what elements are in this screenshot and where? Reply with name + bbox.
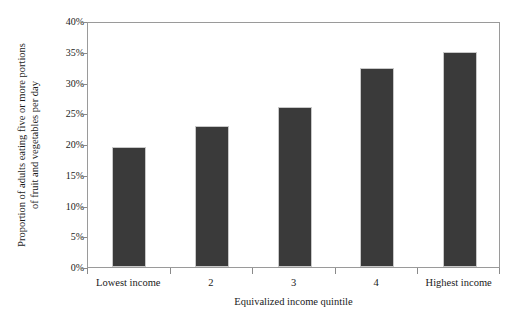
y-axis-tick-label: 0% — [52, 263, 84, 273]
y-axis-tick-label: 15% — [52, 171, 84, 181]
bar[interactable] — [112, 147, 146, 267]
x-axis-tick-mark — [170, 268, 171, 274]
y-axis-title-line-1: Proportion of adults eating five or more… — [15, 43, 28, 247]
y-axis-tick-mark — [81, 114, 87, 115]
y-axis-title-line-2: of fruit and vegetables per day — [28, 43, 41, 247]
y-axis-title-text: Proportion of adults eating five or more… — [15, 43, 41, 247]
y-axis-tick-mark — [81, 22, 87, 23]
x-axis-tick-mark — [87, 268, 88, 274]
y-axis-title: Proportion of adults eating five or more… — [0, 0, 56, 290]
x-axis-tick-label: Highest income — [426, 277, 492, 289]
bar[interactable] — [195, 126, 229, 267]
y-axis-tick-mark — [81, 84, 87, 85]
x-axis-title: Equivalized income quintile — [87, 295, 500, 308]
y-axis-tick-mark — [81, 237, 87, 238]
bars-layer — [88, 23, 499, 267]
y-axis-tick-labels: 0%5%10%15%20%25%30%35%40% — [52, 0, 84, 320]
x-axis-tick-label: Lowest income — [96, 277, 160, 289]
y-axis-tick-label: 20% — [52, 140, 84, 150]
y-axis-tick-mark — [81, 53, 87, 54]
x-axis-tick-mark — [499, 268, 500, 274]
y-axis-tick-label: 30% — [52, 79, 84, 89]
plot-area — [87, 22, 500, 268]
bar[interactable] — [278, 107, 312, 267]
y-axis-tick-mark — [81, 176, 87, 177]
y-axis-tick-label: 35% — [52, 48, 84, 58]
x-axis-tick-mark — [335, 268, 336, 274]
bar[interactable] — [443, 52, 477, 267]
y-axis-tick-label: 10% — [52, 202, 84, 212]
y-axis-tick-label: 40% — [52, 17, 84, 27]
x-axis-tick-mark — [417, 268, 418, 274]
x-axis-tick-label: 2 — [208, 277, 213, 289]
bar-chart-figure: Proportion of adults eating five or more… — [0, 0, 520, 320]
bar[interactable] — [360, 68, 394, 267]
x-axis-tick-label: 4 — [373, 277, 378, 289]
y-axis-tick-label: 5% — [52, 232, 84, 242]
x-axis-tick-mark — [252, 268, 253, 274]
y-axis-tick-mark — [81, 145, 87, 146]
y-axis-tick-label: 25% — [52, 109, 84, 119]
y-axis-tick-mark — [81, 207, 87, 208]
x-axis-tick-label: 3 — [291, 277, 296, 289]
